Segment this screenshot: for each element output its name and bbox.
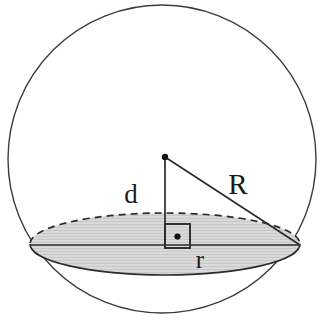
label-radius-R: R (228, 168, 248, 200)
right-angle-dot-icon (174, 233, 180, 239)
label-radius-r: r (196, 246, 205, 273)
sphere-cross-section-figure: R d r (0, 0, 335, 327)
sphere-center-point (162, 154, 168, 160)
label-distance-d: d (124, 179, 138, 209)
figure-background (0, 0, 335, 327)
diagram-canvas: R d r (0, 0, 335, 327)
